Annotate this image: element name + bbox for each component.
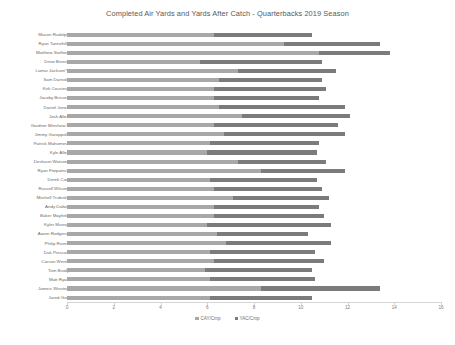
table-row: Patrick Mahomes* (0, 139, 455, 148)
table-row: Drew Brees* (0, 57, 455, 66)
table-row: Dak Prescott (0, 248, 455, 257)
bar-segment-cay (67, 132, 224, 136)
bar-segment-yac (219, 105, 345, 109)
table-row: Jameis Winston (0, 284, 455, 293)
bar-segment-yac (210, 141, 320, 145)
table-row: Mitchell Trubisky (0, 193, 455, 202)
table-row: Daniel Jones (0, 103, 455, 112)
y-axis-label: Daniel Jones (0, 103, 69, 112)
table-row: Carson Wentz (0, 257, 455, 266)
x-axis-tick-label: 0 (55, 305, 79, 310)
y-axis-label: Tom Brady (0, 266, 69, 275)
table-row: Philip Rivers (0, 239, 455, 248)
y-axis-label: Philip Rivers (0, 239, 69, 248)
legend-item[interactable]: YAC/Cmp (235, 316, 260, 321)
y-axis-label: Dak Prescott (0, 248, 69, 257)
bar-segment-yac (217, 232, 308, 236)
bar-segment-yac (261, 169, 345, 173)
bar-segment-cay (67, 160, 238, 164)
table-row: Deshaun Watson* (0, 157, 455, 166)
bar-segment-yac (219, 78, 322, 82)
bar-segment-cay (67, 69, 238, 73)
bar-segment-cay (67, 60, 200, 64)
bar-segment-yac (238, 69, 336, 73)
y-axis-label: Russell Wilson* (0, 184, 69, 193)
bar-segment-yac (200, 60, 322, 64)
bar-segment-cay (67, 178, 210, 182)
table-row: Gardner Minshew II (0, 121, 455, 130)
bar-segment-cay (67, 51, 319, 55)
table-row: Josh Allen (0, 112, 455, 121)
bar-segment-cay (67, 250, 210, 254)
bar-segment-cay (67, 114, 242, 118)
table-row: Jimmy Garoppolo (0, 130, 455, 139)
y-axis-label: Andy Dalton (0, 202, 69, 211)
bar-segment-cay (67, 187, 214, 191)
y-axis-label: Deshaun Watson* (0, 157, 69, 166)
legend-item[interactable]: CAY/Cmp (195, 316, 220, 321)
y-axis-label: Mitchell Trubisky (0, 193, 69, 202)
x-axis-tick-label: 8 (242, 305, 266, 310)
bar-segment-yac (210, 277, 315, 281)
bar-segment-yac (319, 51, 389, 55)
bar-segment-cay (67, 169, 261, 173)
x-axis-tick-label: 6 (195, 305, 219, 310)
y-axis-label: Drew Brees* (0, 57, 69, 66)
chart-title: Completed Air Yards and Yards After Catc… (0, 9, 455, 18)
table-row: Matt Ryan (0, 275, 455, 284)
table-row: Kyle Allen (0, 148, 455, 157)
y-axis-label: Mason Rudolph (0, 30, 69, 39)
y-axis-label: Baker Mayfield (0, 211, 69, 220)
bar-segment-yac (205, 268, 313, 272)
bar-segment-cay (67, 96, 214, 100)
bar-segment-yac (210, 178, 318, 182)
table-row: Ryan Tannehill* (0, 39, 455, 48)
bar-segment-yac (226, 241, 331, 245)
bar-segment-yac (214, 123, 338, 127)
legend-label: YAC/Cmp (239, 316, 259, 321)
y-axis-label: Jared Goff (0, 293, 69, 302)
y-axis-label: Matthew Stafford (0, 48, 69, 57)
table-row: Matthew Stafford (0, 48, 455, 57)
y-axis-label: Derek Carr (0, 175, 69, 184)
bar-segment-cay (67, 286, 261, 290)
y-axis-label: Sam Darnold (0, 75, 69, 84)
table-row: Baker Mayfield (0, 211, 455, 220)
bar-segment-yac (214, 87, 326, 91)
bar-segment-cay (67, 223, 207, 227)
bar-segment-yac (214, 187, 322, 191)
chart-legend: CAY/CmpYAC/Cmp (0, 316, 455, 321)
bar-segment-yac (242, 114, 350, 118)
bar-segment-cay (67, 268, 205, 272)
x-axis-tick-label: 14 (382, 305, 406, 310)
y-axis-label: Jameis Winston (0, 284, 69, 293)
table-row: Ryan Fitzpatrick (0, 166, 455, 175)
bar-segment-cay (67, 105, 219, 109)
table-row: Jared Goff (0, 293, 455, 302)
y-axis-label: Jimmy Garoppolo (0, 130, 69, 139)
table-row: Lamar Jackson*^ (0, 66, 455, 75)
y-axis-label: Carson Wentz (0, 257, 69, 266)
bar-segment-cay (67, 42, 284, 46)
y-axis-label: Matt Ryan (0, 275, 69, 284)
table-row: Aaron Rodgers* (0, 229, 455, 238)
bar-segment-yac (238, 160, 327, 164)
bar-segment-yac (207, 150, 317, 154)
y-axis-label: Aaron Rodgers* (0, 229, 69, 238)
bar-segment-cay (67, 196, 233, 200)
bar-segment-yac (214, 205, 319, 209)
bar-segment-cay (67, 296, 210, 300)
bar-segment-yac (210, 250, 315, 254)
bar-segment-yac (261, 286, 380, 290)
legend-swatch-icon (235, 317, 238, 320)
legend-label: CAY/Cmp (200, 316, 220, 321)
table-row: Andy Dalton (0, 202, 455, 211)
y-axis-label: Patrick Mahomes* (0, 139, 69, 148)
table-row: Mason Rudolph (0, 30, 455, 39)
bar-segment-cay (67, 205, 214, 209)
table-row: Kyler Murray (0, 220, 455, 229)
bar-segment-cay (67, 33, 214, 37)
bar-segment-cay (67, 78, 219, 82)
table-row: Russell Wilson* (0, 184, 455, 193)
y-axis-label: Ryan Tannehill* (0, 39, 69, 48)
